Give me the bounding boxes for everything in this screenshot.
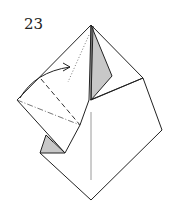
small-shaded-flap xyxy=(40,135,65,153)
hidden-edge-line xyxy=(68,35,89,82)
valley-fold-line xyxy=(41,79,80,125)
mountain-fold-line xyxy=(17,100,80,125)
fold-arrow xyxy=(20,63,70,98)
model-outline xyxy=(17,25,162,200)
origami-diagram xyxy=(0,0,177,219)
